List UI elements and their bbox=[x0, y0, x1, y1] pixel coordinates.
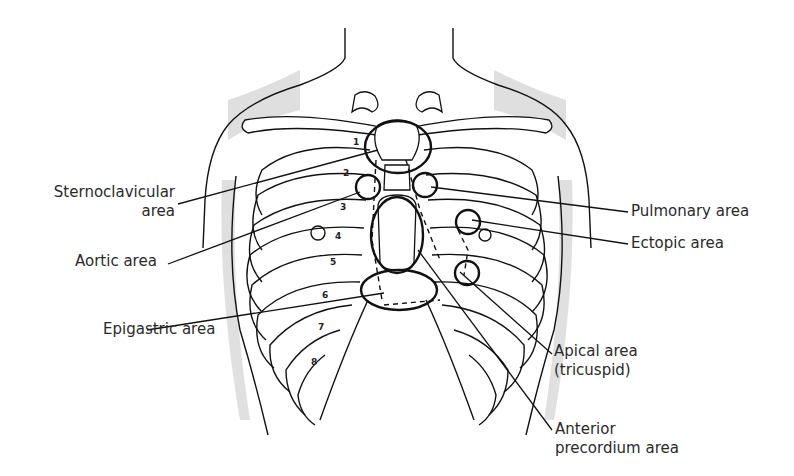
label-anterior-precordium-area: Anterior precordium area bbox=[555, 420, 679, 458]
pulmonary-circle bbox=[413, 173, 437, 197]
chest-diagram: 1 2 3 4 5 6 7 8 Sternoclavicular area Ao… bbox=[0, 0, 794, 476]
label-ectopic-area: Ectopic area bbox=[631, 234, 724, 253]
label-pulmonary-area: Pulmonary area bbox=[631, 202, 749, 221]
svg-text:1: 1 bbox=[353, 137, 359, 147]
label-line: Apical area bbox=[554, 342, 638, 361]
svg-text:6: 6 bbox=[322, 290, 328, 300]
svg-text:7: 7 bbox=[318, 322, 324, 332]
label-aortic-area: Aortic area bbox=[75, 252, 157, 271]
svg-text:4: 4 bbox=[335, 231, 341, 241]
ribs-left bbox=[247, 148, 370, 426]
aortic-circle bbox=[356, 175, 380, 199]
svg-text:8: 8 bbox=[311, 357, 317, 367]
sternum bbox=[375, 120, 419, 270]
label-sternoclavicular-area: Sternoclavicular area bbox=[30, 183, 175, 221]
svg-text:3: 3 bbox=[340, 202, 346, 212]
label-epigastric-area: Epigastric area bbox=[103, 320, 215, 339]
label-line: Anterior bbox=[555, 420, 679, 439]
rib-number-labels: 1 2 3 4 5 6 7 8 bbox=[311, 137, 359, 367]
epigastric-ellipse bbox=[361, 270, 437, 310]
label-line: precordium area bbox=[555, 439, 679, 458]
label-apical-area: Apical area (tricuspid) bbox=[554, 342, 638, 380]
apical-circle bbox=[455, 261, 479, 285]
label-line: Sternoclavicular bbox=[30, 183, 175, 202]
label-line: (tricuspid) bbox=[554, 361, 638, 380]
svg-text:2: 2 bbox=[343, 168, 349, 178]
ribs-right bbox=[424, 148, 547, 426]
ectopic-circle bbox=[456, 210, 480, 234]
svg-text:5: 5 bbox=[330, 257, 336, 267]
label-line: area bbox=[30, 202, 175, 221]
